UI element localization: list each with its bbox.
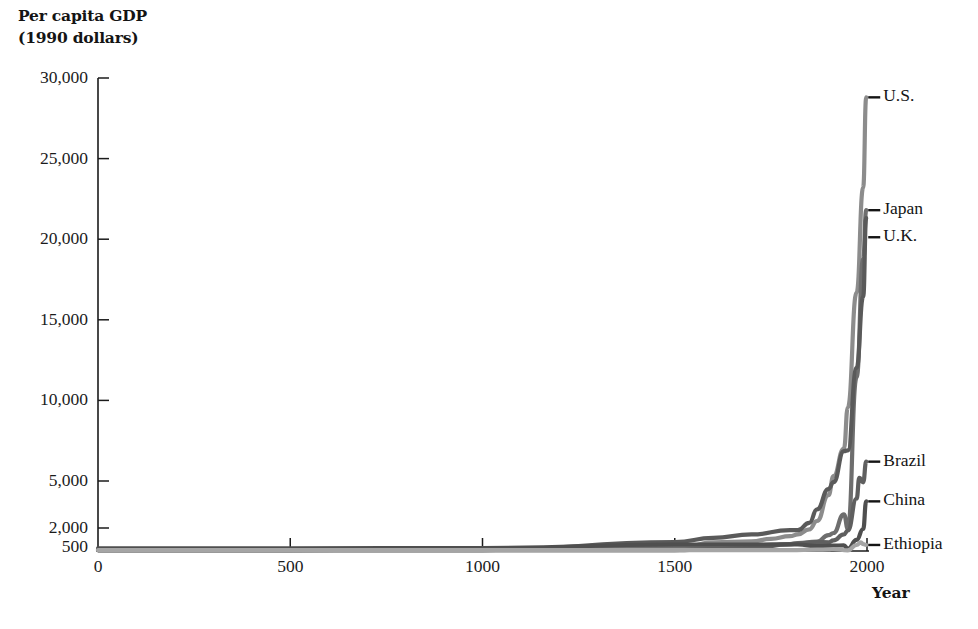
- plot-area: [0, 0, 978, 629]
- series-line-brazil: [98, 462, 866, 550]
- series-line-japan: [98, 210, 866, 550]
- axes-lines: [98, 78, 869, 551]
- axis-tick-marks: [98, 78, 867, 551]
- series-line-uk: [98, 218, 866, 550]
- chart-figure: Per capita GDP (1990 dollars) Year 5002,…: [0, 0, 978, 629]
- series-line-us: [98, 97, 866, 550]
- label-leader-lines: [868, 97, 880, 545]
- series-lines: [98, 97, 866, 550]
